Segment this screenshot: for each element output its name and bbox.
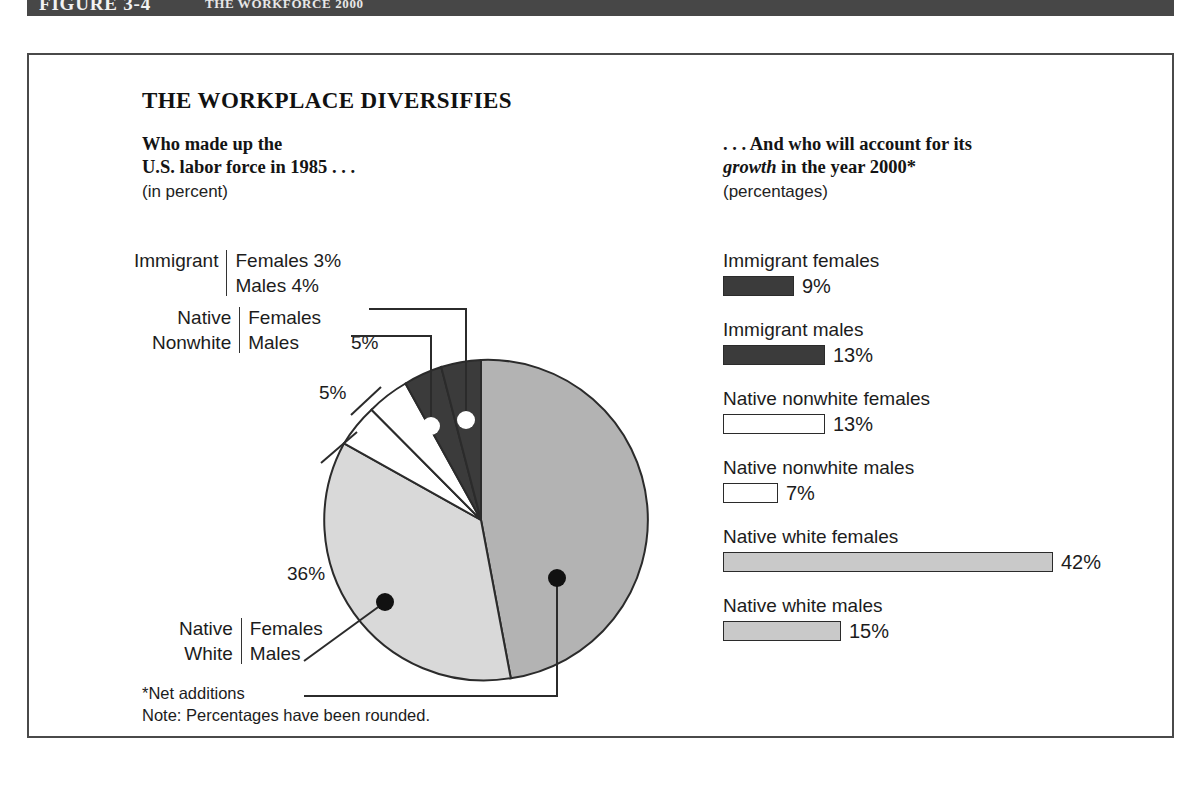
figure-title: THE WORKFORCE 2000 xyxy=(205,0,364,12)
bar-chart-area: Immigrant females 9% Immigrant males 13%… xyxy=(723,250,1153,664)
right-heading-line1: . . . And who will account for its xyxy=(723,133,1143,156)
bar-value: 9% xyxy=(802,275,831,298)
bar-label: Native nonwhite females xyxy=(723,388,1153,410)
right-heading-emphasis: growth xyxy=(723,157,776,177)
bar-label: Native white males xyxy=(723,595,1153,617)
footnote-net-additions: *Net additions xyxy=(142,682,430,704)
bar-value: 13% xyxy=(833,344,873,367)
figure-frame: THE WORKPLACE DIVERSIFIES Who made up th… xyxy=(27,53,1174,738)
bar-value: 7% xyxy=(786,482,815,505)
right-heading-units: (percentages) xyxy=(723,180,1143,203)
bar-item: Native white females 42% xyxy=(723,526,1153,573)
bar-item: Native nonwhite females 13% xyxy=(723,388,1153,435)
right-heading-line2-rest: in the year 2000* xyxy=(776,157,915,177)
bar-row: 13% xyxy=(723,413,1153,435)
bar-label: Native white females xyxy=(723,526,1153,548)
bar-row: 9% xyxy=(723,275,1153,297)
bar-row: 13% xyxy=(723,344,1153,366)
bar-value: 42% xyxy=(1061,551,1101,574)
bar-value: 15% xyxy=(849,620,889,643)
bar-rect xyxy=(723,276,794,296)
bar-item: Immigrant males 13% xyxy=(723,319,1153,366)
pie-chart-svg xyxy=(129,235,729,735)
footnotes: *Net additions Note: Percentages have be… xyxy=(142,682,430,726)
bar-label: Immigrant males xyxy=(723,319,1153,341)
bar-rect xyxy=(723,483,778,503)
bar-row: 7% xyxy=(723,482,1153,504)
callout-dot-immigrant-males xyxy=(422,417,440,435)
figure-number: FIGURE 3-4 xyxy=(39,0,151,15)
bar-rect xyxy=(723,414,825,434)
bar-item: Immigrant females 9% xyxy=(723,250,1153,297)
figure-banner: FIGURE 3-4 THE WORKFORCE 2000 xyxy=(27,0,1174,16)
callout-dot-native-white-males xyxy=(548,569,566,587)
bar-value: 13% xyxy=(833,413,873,436)
bar-label: Immigrant females xyxy=(723,250,1153,272)
right-heading-line2: growth in the year 2000* xyxy=(723,156,1143,179)
bar-rect xyxy=(723,345,825,365)
bar-rect xyxy=(723,552,1053,572)
right-column-heading: . . . And who will account for its growt… xyxy=(723,133,1143,203)
bar-row: 42% xyxy=(723,551,1153,573)
bar-item: Native nonwhite males 7% xyxy=(723,457,1153,504)
footnote-rounding-note: Note: Percentages have been rounded. xyxy=(142,704,430,726)
bar-label: Native nonwhite males xyxy=(723,457,1153,479)
bar-item: Native white males 15% xyxy=(723,595,1153,642)
bar-row: 15% xyxy=(723,620,1153,642)
bar-rect xyxy=(723,621,841,641)
callout-dot-immigrant-females xyxy=(457,411,475,429)
pie-chart-area: Immigrant Females 3% Males 4% Native Non… xyxy=(29,55,729,740)
callout-dot-native-white-females xyxy=(376,593,394,611)
pie-slice-native-white-males xyxy=(481,360,648,678)
